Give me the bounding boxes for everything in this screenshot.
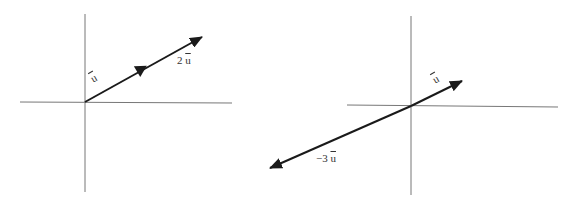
vector-scaling-diagram [0, 0, 579, 201]
x-axis [347, 105, 558, 107]
vector-minus-3u [270, 106, 411, 168]
mid-arrowhead-icon [134, 66, 147, 77]
x-axis [20, 102, 232, 103]
label-minus-3u: −3 u [316, 152, 336, 164]
left-plot [20, 14, 232, 192]
right-plot [270, 16, 558, 195]
label-2u: 2 u [177, 54, 191, 66]
